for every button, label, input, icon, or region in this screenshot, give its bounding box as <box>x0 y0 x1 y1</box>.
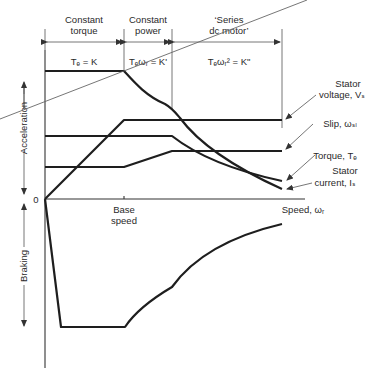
control-characteristics-diagram: Constant torque Constant power ‘Series d… <box>0 0 371 380</box>
braking-indicator: Braking <box>18 204 29 326</box>
svg-text:Constant: Constant <box>129 14 167 25</box>
label-stator-current: Stator <box>332 165 357 176</box>
label-stator-voltage: Stator <box>335 78 360 89</box>
svg-text:Constant: Constant <box>65 14 103 25</box>
svg-text:power: power <box>135 25 161 36</box>
curve-label-pointers <box>286 95 316 189</box>
acceleration-indicator: Acceleration <box>18 82 29 194</box>
stator-voltage-curve <box>45 120 282 199</box>
speed-axis-label: Speed, ωᵣ <box>282 204 325 215</box>
label-stator-current-2: current, Iₛ <box>314 177 355 188</box>
region-constant-power-title: Constant power <box>129 14 167 36</box>
region-constant-torque-title: Constant torque <box>65 14 103 36</box>
svg-text:‘Series: ‘Series <box>214 14 243 25</box>
braking-torque-curve <box>45 199 282 327</box>
svg-text:Braking: Braking <box>18 250 29 282</box>
label-stator-voltage-2: voltage, Vₛ <box>319 89 365 100</box>
equation-series-dc: Tₑωᵣ² = K" <box>208 56 251 67</box>
equation-constant-torque: Tₑ = K <box>71 56 98 67</box>
base-speed-label: Base <box>113 204 135 215</box>
label-slip: Slip, ωₛₗ <box>323 118 357 129</box>
slip-curve <box>45 136 282 181</box>
svg-text:torque: torque <box>71 25 98 36</box>
label-torque: Torque, Tₑ <box>313 150 357 161</box>
origin-label: 0 <box>33 194 38 205</box>
base-speed-label-2: speed <box>111 215 137 226</box>
